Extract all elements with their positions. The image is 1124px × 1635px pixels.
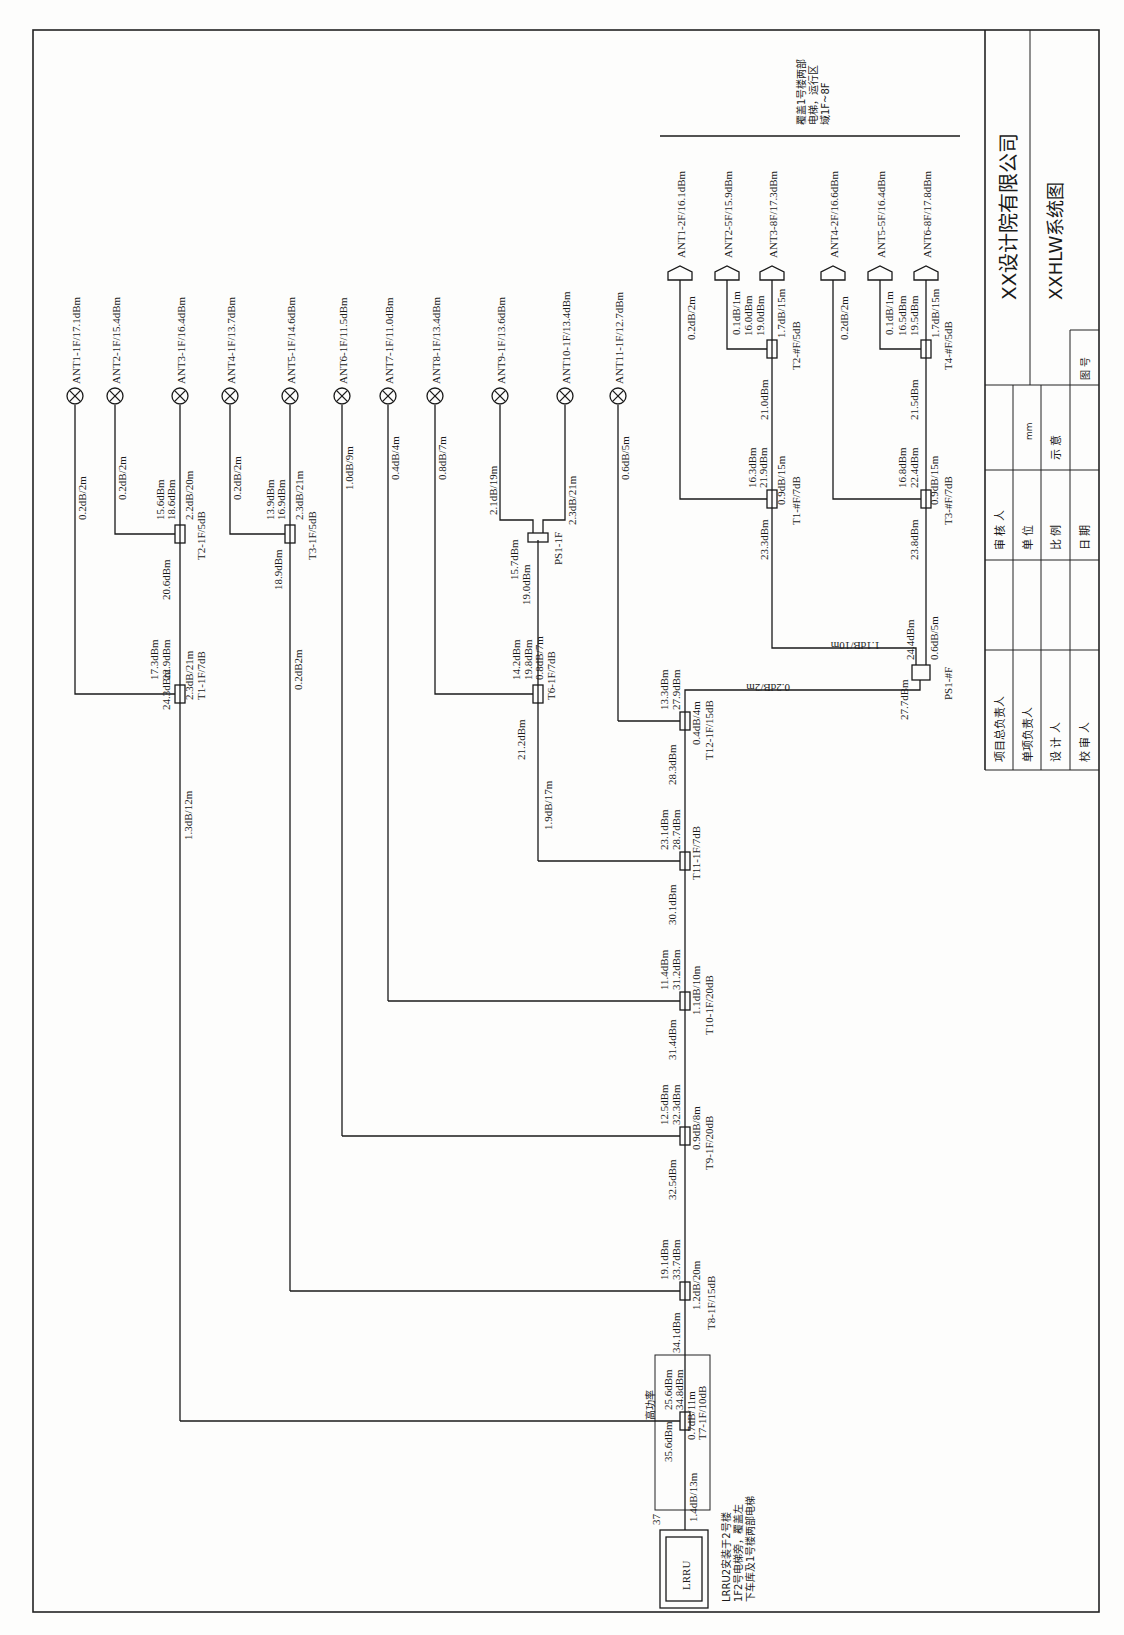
svg-text:21.2dBm: 21.2dBm <box>515 719 527 760</box>
ant11-1f-label: ANT11-1F/12.7dBm <box>613 291 625 384</box>
svg-text:T2-#F/5dB: T2-#F/5dB <box>790 321 802 370</box>
svg-text:1.9dB/17m: 1.9dB/17m <box>542 780 554 830</box>
svg-text:1.7dB/15m: 1.7dB/15m <box>775 288 787 338</box>
svg-text:0.6dB/5m: 0.6dB/5m <box>619 436 631 480</box>
ant1-1f-label: ANT1-1F/17.1dBm <box>70 296 82 384</box>
svg-text:33.7dBm: 33.7dBm <box>670 1239 682 1280</box>
svg-text:0.9dB/15m: 0.9dB/15m <box>928 455 940 505</box>
drawing-number-label: 图 号 <box>1080 357 1091 380</box>
svg-text:T11-1F/7dB: T11-1F/7dB <box>690 826 702 880</box>
coupler-labels-trunk: 35.6dBm 25.6dBm 34.8dBm 0.7dB/11m T7-1F/… <box>658 669 790 1522</box>
svg-text:19.1dBm: 19.1dBm <box>658 1239 670 1280</box>
svg-text:14.2dBm: 14.2dBm <box>510 639 522 680</box>
ant9-branch <box>500 405 533 533</box>
ant6-1f-label: ANT6-1F/11.5dBm <box>337 297 349 384</box>
svg-text:0.2dB/2m: 0.2dB/2m <box>746 682 790 694</box>
svg-text:2.2dB/20m: 2.2dB/20m <box>183 470 195 520</box>
system-diagram: XX设计院有限公司 XXHLW系统图 项目总负责人 单项负责人 设 计 人 校 … <box>0 0 1124 1635</box>
drawing-title: XXHLW系统图 <box>1045 182 1066 300</box>
label-project-lead: 项目总负责人 <box>993 696 1007 762</box>
coupler-labels-1f: 24.3dBm 17.3dBm 22.9dBm 2.3dB/21m T1-1F/… <box>148 479 564 840</box>
lrru-note: LRRU2安装于2号楼 1F2号电梯旁，覆盖左 下车库及1号楼两部电梯 <box>720 1496 756 1602</box>
svg-text:0.8dB/7m: 0.8dB/7m <box>533 636 545 680</box>
scale-value: 示 意 <box>1049 435 1063 461</box>
lrru-label: LRRU <box>680 1561 692 1590</box>
svg-text:19.0dBm: 19.0dBm <box>754 295 766 336</box>
svg-text:T3-#F/7dB: T3-#F/7dB <box>942 476 954 525</box>
svg-text:21.9dBm: 21.9dBm <box>757 447 769 488</box>
ant4-1f-label: ANT4-1F/13.7dBm <box>225 296 237 384</box>
svg-text:ANT4-2F/16.6dBm: ANT4-2F/16.6dBm <box>828 170 840 258</box>
svg-text:23.1dBm: 23.1dBm <box>658 809 670 850</box>
high-power-label: 高功率 <box>644 1390 656 1420</box>
coverage-note: 覆盖1号楼两部电梯，运行区域1F~8F <box>795 59 831 125</box>
svg-text:0.2dB/2m: 0.2dB/2m <box>231 456 243 500</box>
label-checker: 校 审 人 <box>1078 722 1092 762</box>
svg-text:0.9dB/8m: 0.9dB/8m <box>690 1106 702 1150</box>
svg-text:19.0dBm: 19.0dBm <box>520 564 532 605</box>
svg-text:T3-1F/5dB: T3-1F/5dB <box>306 511 318 560</box>
svg-text:0.8dB/7m: 0.8dB/7m <box>436 436 448 480</box>
antenna-labels-elevator: ANT1-2F/16.1dBm ANT2-5F/15.9dBm ANT3-8F/… <box>675 170 933 258</box>
ant3-1f-label: ANT3-1F/16.4dBm <box>175 296 187 384</box>
svg-text:19.5dBm: 19.5dBm <box>908 295 920 336</box>
unit-value: mm <box>1024 422 1034 440</box>
label-reviewer: 审 核 人 <box>993 510 1007 550</box>
svg-text:1.2dB/20m: 1.2dB/20m <box>690 1260 702 1310</box>
svg-text:16.5dBm: 16.5dBm <box>896 295 908 336</box>
svg-text:18.6dBm: 18.6dBm <box>165 479 177 520</box>
label-unit: 单 位 <box>1021 525 1035 551</box>
svg-text:32.3dBm: 32.3dBm <box>670 1084 682 1125</box>
svg-text:T7-1F/10dB: T7-1F/10dB <box>696 1386 708 1440</box>
svg-text:12.5dBm: 12.5dBm <box>658 1084 670 1125</box>
svg-text:0.1dB/1m: 0.1dB/1m <box>883 291 895 335</box>
svg-text:16.9dBm: 16.9dBm <box>275 479 287 520</box>
svg-text:ANT3-8F/17.3dBm: ANT3-8F/17.3dBm <box>767 170 779 258</box>
svg-text:1.1dB/10m: 1.1dB/10m <box>690 965 702 1015</box>
svg-text:34.8dBm: 34.8dBm <box>673 1369 685 1410</box>
svg-text:28.3dBm: 28.3dBm <box>666 744 678 785</box>
svg-text:2.1dB/19m: 2.1dB/19m <box>487 465 499 515</box>
svg-text:T6-1F/7dB: T6-1F/7dB <box>545 651 557 700</box>
svg-text:0.9dB/15m: 0.9dB/15m <box>775 455 787 505</box>
svg-text:T2-1F/5dB: T2-1F/5dB <box>195 511 207 560</box>
svg-text:PS1-#F: PS1-#F <box>942 667 954 700</box>
svg-text:15.7dBm: 15.7dBm <box>508 539 520 580</box>
ant5-1f-label: ANT5-1F/14.6dBm <box>285 296 297 384</box>
svg-text:34.1dBm: 34.1dBm <box>670 1312 682 1353</box>
ant8-1f-label: ANT8-1F/13.4dBm <box>430 296 442 384</box>
svg-text:22.4dBm: 22.4dBm <box>908 447 920 488</box>
svg-text:24.4dBm: 24.4dBm <box>904 619 916 660</box>
splitter-ps1-f <box>912 665 930 680</box>
svg-text:11.4dBm: 11.4dBm <box>658 949 670 990</box>
svg-text:27.9dBm: 27.9dBm <box>670 669 682 710</box>
svg-text:0.4dB/4m: 0.4dB/4m <box>690 701 702 745</box>
svg-text:0.6dB/5m: 0.6dB/5m <box>928 616 940 660</box>
title-block: XX设计院有限公司 XXHLW系统图 项目总负责人 单项负责人 设 计 人 校 … <box>985 30 1099 770</box>
svg-text:20.6dBm: 20.6dBm <box>160 559 172 600</box>
svg-text:0.2dB/2m: 0.2dB/2m <box>685 296 697 340</box>
svg-text:0.1dB/1m: 0.1dB/1m <box>730 291 742 335</box>
svg-text:13.3dBm: 13.3dBm <box>658 669 670 710</box>
label-item-lead: 单项负责人 <box>1021 707 1035 762</box>
svg-text:23.3dBm: 23.3dBm <box>758 519 770 560</box>
svg-text:2.3dB/21m: 2.3dB/21m <box>293 470 305 520</box>
svg-text:28.7dBm: 28.7dBm <box>670 809 682 850</box>
svg-text:T1-#F/7dB: T1-#F/7dB <box>790 476 802 525</box>
ant9-1f-label: ANT9-1F/13.6dBm <box>495 296 507 384</box>
svg-text:T1-1F/7dB: T1-1F/7dB <box>195 651 207 700</box>
svg-text:27.7dBm: 27.7dBm <box>898 679 910 720</box>
lrru-source: LRRU 37 LRRU2安装于2号楼 1F2号电梯旁，覆盖左 下车库及1号楼两… <box>650 1496 756 1608</box>
drawing-sheet: XX设计院有限公司 XXHLW系统图 项目总负责人 单项负责人 设 计 人 校 … <box>0 0 1124 1635</box>
svg-text:1.1dB/10m: 1.1dB/10m <box>830 640 880 652</box>
label-date: 日 期 <box>1079 525 1092 551</box>
company-name: XX设计院有限公司 <box>997 133 1021 300</box>
svg-text:0.4dB/4m: 0.4dB/4m <box>389 436 401 480</box>
svg-text:30.1dBm: 30.1dBm <box>666 884 678 925</box>
svg-text:T10-1F/20dB: T10-1F/20dB <box>703 975 715 1035</box>
ant7-1f-label: ANT7-1F/11.0dBm <box>383 297 395 384</box>
svg-text:21.5dBm: 21.5dBm <box>908 379 920 420</box>
label-scale: 比 例 <box>1049 525 1063 551</box>
ant10-1f-label: ANT10-1F/13.4dBm <box>560 291 572 384</box>
svg-text:0.2dB2m: 0.2dB2m <box>292 649 304 690</box>
